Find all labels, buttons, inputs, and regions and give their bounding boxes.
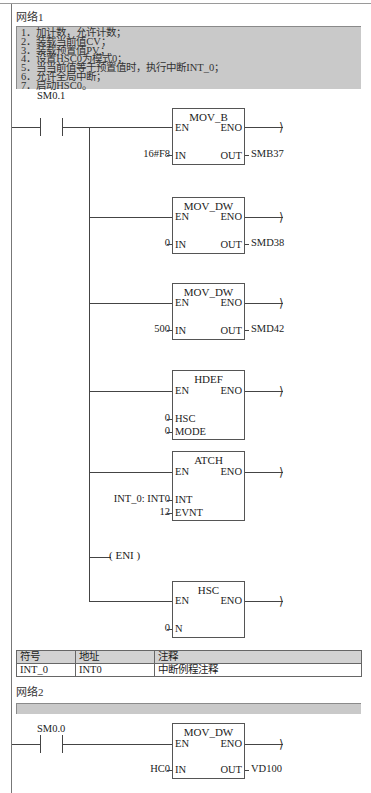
cell-comment[interactable]: 中断例程注释 — [155, 664, 362, 677]
out-operand[interactable]: SMD38 — [251, 237, 284, 248]
rung-wire — [89, 557, 111, 558]
cell-symbol[interactable]: INT_0 — [17, 664, 76, 677]
in-operand[interactable]: 16#F8 — [143, 148, 170, 159]
int-operand[interactable]: INT_0: INT0 — [114, 493, 170, 504]
contact-sm0-1-label: SM0.1 — [37, 90, 65, 101]
rung-wire — [63, 744, 172, 745]
eno-wire — [245, 217, 283, 218]
mov-dw-block[interactable]: MOV_DW EN ENO IN OUT — [172, 283, 245, 340]
pin-stub — [245, 330, 249, 331]
pin-stub — [167, 432, 172, 433]
pin-eno: ENO — [220, 738, 242, 749]
pin-stub — [167, 155, 172, 156]
table-row[interactable]: INT_0 INT0 中断例程注释 — [17, 664, 362, 677]
pin-hsc: HSC — [175, 413, 195, 424]
pin-mode: MODE — [175, 426, 206, 437]
pin-stub — [245, 244, 249, 245]
pin-n: N — [175, 623, 183, 634]
coil-left-paren: ( — [109, 549, 113, 561]
pin-stub — [167, 419, 172, 420]
pin-stub — [167, 244, 172, 245]
contact-sm0-0-label: SM0.0 — [37, 723, 65, 734]
network-2-comment[interactable] — [16, 703, 361, 714]
mov-b-block[interactable]: MOV_B EN ENO IN OUT — [172, 108, 245, 165]
pin-eno: ENO — [220, 595, 242, 606]
branch-wire — [89, 127, 90, 601]
in-operand[interactable]: HC0 — [150, 763, 170, 774]
pin-stub — [167, 330, 172, 331]
output-arrow-icon: ⟩ — [279, 466, 284, 478]
rung-wire — [63, 127, 172, 128]
eno-wire — [245, 472, 283, 473]
eni-coil[interactable]: ( ENI ) — [109, 549, 140, 561]
atch-block[interactable]: ATCH EN ENO INT EVNT — [172, 451, 245, 521]
pin-out: OUT — [220, 239, 242, 250]
pin-eno: ENO — [220, 466, 242, 477]
pin-eno: ENO — [220, 211, 242, 222]
header-comment: 注释 — [155, 651, 362, 664]
coil-label: ENI — [115, 549, 133, 561]
power-rail-wire — [12, 744, 40, 745]
n-operand[interactable]: 0 — [165, 622, 170, 633]
eno-wire — [245, 303, 283, 304]
pin-in: IN — [175, 150, 186, 161]
output-arrow-icon: ⟩ — [279, 595, 284, 607]
block-title: HDEF — [173, 373, 244, 385]
pin-in: IN — [175, 239, 186, 250]
mov-dw-block[interactable]: MOV_DW EN ENO IN OUT — [172, 723, 245, 779]
pin-evnt: EVNT — [175, 507, 203, 518]
pin-en: EN — [175, 297, 189, 308]
pin-stub — [245, 770, 249, 771]
pin-out: OUT — [220, 325, 242, 336]
block-title: ATCH — [173, 454, 244, 466]
pin-en: EN — [175, 466, 189, 477]
mov-dw-block[interactable]: MOV_DW EN ENO IN OUT — [172, 197, 245, 254]
eno-wire — [245, 127, 283, 128]
in-operand[interactable]: 500 — [154, 323, 170, 334]
out-operand[interactable]: VD100 — [251, 763, 282, 774]
output-arrow-icon: ⟩ — [279, 121, 284, 133]
pin-stub — [245, 155, 249, 156]
cell-address[interactable]: INT0 — [76, 664, 155, 677]
network-1-comment[interactable]: 1．加计数，允许计数； 2．装载当前值CV； 3．装载预置值PV； 4．设置HS… — [16, 26, 361, 89]
pin-en: EN — [175, 385, 189, 396]
rung-wire — [89, 303, 172, 304]
hdef-block[interactable]: HDEF EN ENO HSC MODE — [172, 370, 245, 440]
pin-in: IN — [175, 325, 186, 336]
network-1-label[interactable]: 网络1 — [16, 8, 44, 24]
hsc-block[interactable]: HSC EN ENO N — [172, 581, 245, 638]
pin-stub — [167, 770, 172, 771]
evnt-operand[interactable]: 12 — [160, 506, 171, 517]
eno-wire — [245, 744, 283, 745]
output-arrow-icon: ⟩ — [279, 738, 284, 750]
rung-wire — [89, 472, 172, 473]
pin-out: OUT — [220, 150, 242, 161]
contact-sm0-0[interactable] — [40, 735, 63, 753]
output-arrow-icon: ⟩ — [279, 211, 284, 223]
output-arrow-icon: ⟩ — [279, 385, 284, 397]
rung-wire — [89, 217, 172, 218]
pin-eno: ENO — [220, 297, 242, 308]
rung-wire — [89, 601, 172, 602]
pin-out: OUT — [220, 764, 242, 775]
header-address: 地址 — [76, 651, 155, 664]
out-operand[interactable]: SMD42 — [251, 323, 284, 334]
mode-operand[interactable]: 0 — [165, 425, 170, 436]
pin-en: EN — [175, 595, 189, 606]
pin-en: EN — [175, 211, 189, 222]
block-title: MOV_DW — [173, 726, 244, 738]
header-symbol: 符号 — [17, 651, 76, 664]
in-operand[interactable]: 0 — [165, 237, 170, 248]
power-rail-wire — [12, 127, 40, 128]
pin-eno: ENO — [220, 385, 242, 396]
eno-wire — [245, 391, 283, 392]
hsc-operand[interactable]: 0 — [165, 412, 170, 423]
out-operand[interactable]: SMB37 — [251, 148, 284, 159]
editor-top-border — [0, 3, 371, 4]
output-arrow-icon: ⟩ — [279, 297, 284, 309]
eno-wire — [245, 601, 283, 602]
contact-sm0-1[interactable] — [40, 118, 63, 136]
network-2-label[interactable]: 网络2 — [16, 683, 44, 699]
pin-en: EN — [175, 122, 189, 133]
pin-en: EN — [175, 738, 189, 749]
